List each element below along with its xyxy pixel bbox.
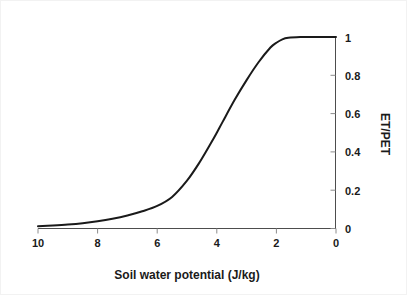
y-tick-label: 0.4 [345, 146, 361, 158]
chart-figure: 10 8 6 4 2 0 1 0.8 0.6 0.4 0.2 0 Soil wa… [0, 0, 407, 295]
x-tick-label: 4 [214, 237, 221, 249]
x-tick-label: 6 [154, 237, 160, 249]
y-tick-label: 0.8 [345, 70, 360, 82]
x-axis-title: Soil water potential (J/kg) [114, 268, 259, 282]
y-axis-ticks [331, 37, 336, 229]
x-tick-label: 8 [95, 237, 101, 249]
y-axis-title: ET/PET [378, 113, 392, 156]
y-tick-labels: 1 0.8 0.6 0.4 0.2 0 [345, 32, 361, 236]
x-tick-label: 2 [273, 237, 279, 249]
x-tick-label: 10 [32, 237, 44, 249]
data-series-curve [38, 37, 336, 226]
y-tick-label: 0.2 [345, 185, 360, 197]
x-tick-label: 0 [333, 237, 339, 249]
y-tick-label: 1 [345, 32, 351, 44]
y-tick-label: 0 [345, 223, 351, 235]
x-axis-ticks [38, 229, 336, 234]
x-tick-labels: 10 8 6 4 2 0 [32, 237, 339, 249]
y-tick-label: 0.6 [345, 108, 360, 120]
plot-area: 10 8 6 4 2 0 1 0.8 0.6 0.4 0.2 0 Soil wa… [1, 1, 407, 295]
chart-svg: 10 8 6 4 2 0 1 0.8 0.6 0.4 0.2 0 Soil wa… [1, 1, 407, 295]
